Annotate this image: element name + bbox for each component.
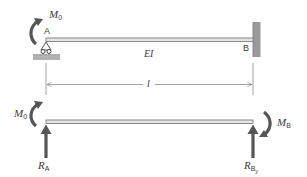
top-beam (46, 38, 254, 42)
moment-left-label: M0 (14, 108, 27, 120)
reaction-b-subscript-y: y (255, 168, 258, 174)
moment-symbol: M (49, 8, 58, 20)
moment-subscript: 0 (58, 14, 62, 21)
reaction-a-arrow-icon (41, 125, 52, 159)
point-b-label: B (243, 44, 249, 53)
moment-right-subscript: B (286, 122, 291, 129)
fixed-wall-icon (253, 22, 261, 57)
bottom-beam (46, 120, 253, 124)
moment-right-symbol: M (277, 116, 286, 128)
moment-right-arrow-icon (259, 112, 270, 137)
reaction-a-subscript: A (45, 165, 50, 172)
stiffness-label: EI (144, 49, 153, 59)
moment-right-label: MB (277, 117, 291, 129)
reaction-a-label: RA (38, 160, 49, 172)
moment-left-arrow-icon (31, 101, 43, 126)
reaction-b-label: RBy (244, 160, 258, 174)
point-a-label: A (44, 27, 50, 36)
reaction-b-arrow-icon (248, 125, 259, 159)
moment-left-subscript: 0 (23, 113, 27, 120)
reaction-b-subscript: By (251, 165, 258, 172)
moment-left-symbol: M (14, 107, 23, 119)
beam-diagram: M0 A B EI l M0 MB RA RBy (0, 0, 307, 177)
pin-support-icon (33, 42, 60, 60)
length-label: l (147, 79, 150, 89)
moment-label-top: M0 (49, 9, 62, 21)
reaction-a-symbol: R (38, 159, 45, 171)
moment-arrow-icon (31, 18, 43, 44)
reaction-b-symbol: R (244, 159, 251, 171)
